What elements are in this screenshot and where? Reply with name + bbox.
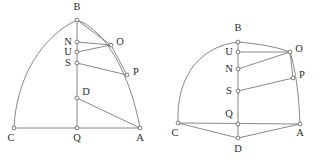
point-label-N: N [225,63,233,74]
segment-B-O [77,20,111,45]
point-label-C: C [171,127,178,138]
point-label-D: D [82,86,90,97]
point-label-S: S [226,85,232,96]
point-label-S: S [65,57,71,68]
point-label-P: P [133,66,139,77]
point-node-B [75,18,79,22]
point-node-P [125,73,129,77]
point-node-S [236,89,240,93]
point-node-D [236,136,240,140]
point-node-N [75,40,79,44]
point-node-B [236,40,240,44]
point-label-A: A [296,127,304,138]
point-node-U [236,50,240,54]
point-label-O: O [116,36,124,47]
segment-N-O [238,52,290,69]
point-node-P [291,76,295,80]
point-node-A [298,122,302,126]
geometry-diagram-svg: BNUSDQCAOP BUNSQCADOP [0,0,321,166]
arc-B-O [238,42,290,52]
point-node-A [138,126,142,130]
point-node-N [236,67,240,71]
point-node-S [75,61,79,65]
segment-U-O [77,45,111,52]
geometry-figure-container: BNUSDQCAOP BUNSQCADOP [0,0,321,166]
point-node-C [12,126,16,130]
point-node-C [176,121,180,125]
left-diagram-group: BNUSDQCAOP [7,1,144,143]
point-label-U: U [225,46,233,57]
segment-D-A [77,98,140,128]
point-node-O [288,50,292,54]
point-node-Q [75,126,79,130]
segment-C-D [178,123,238,138]
point-label-P: P [299,69,305,80]
point-label-A: A [136,132,144,143]
point-label-U: U [64,46,72,57]
point-label-B: B [73,1,80,12]
arc-B-A [77,20,140,128]
point-label-C: C [7,132,14,143]
point-node-U [75,50,79,54]
segment-O-P [111,45,127,75]
point-label-B: B [234,22,241,33]
point-node-Q [236,122,240,126]
point-node-O [109,43,113,47]
point-label-O: O [295,43,303,54]
point-label-D: D [234,143,242,154]
right-diagram-group: BUNSQCADOP [171,22,305,154]
segment-S-P [238,78,293,91]
point-label-Q: Q [73,132,81,143]
point-label-Q: Q [225,108,233,119]
segment-D-A [238,124,300,138]
point-node-D [75,96,79,100]
